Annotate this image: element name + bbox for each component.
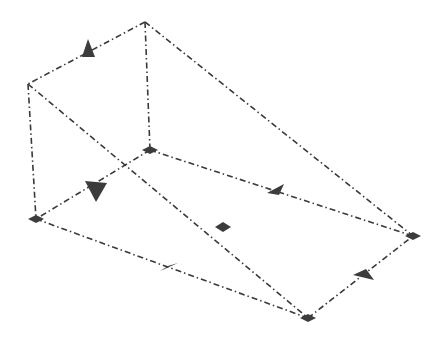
edge-BF [28,84,308,318]
center-marker [215,222,231,232]
arrow-marker-icon [353,269,374,280]
edge-CE [150,150,413,236]
edges-group [28,22,413,318]
arrow-marker-icon [82,39,95,57]
arrow-marker-icon [160,263,178,271]
vertex-marker-F [300,314,316,322]
arrow-marker-icon [85,181,107,202]
edge-BD [28,84,36,219]
wedge-diagram [0,0,448,341]
markers-group [28,39,421,322]
edge-AE [145,22,413,236]
edge-FE [308,236,413,318]
edge-AC [145,22,150,150]
edge-DF [36,219,308,318]
vertex-marker-E [405,232,421,240]
vertex-marker-C [142,146,158,154]
